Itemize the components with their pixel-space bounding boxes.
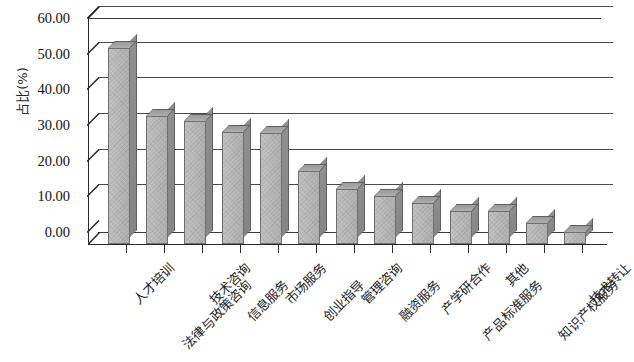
x-axis-category-label: 融资服务: [394, 275, 444, 325]
x-axis-category-label: 产学研合作: [436, 258, 495, 317]
x-axis-category-label: 人才培训: [128, 258, 178, 308]
